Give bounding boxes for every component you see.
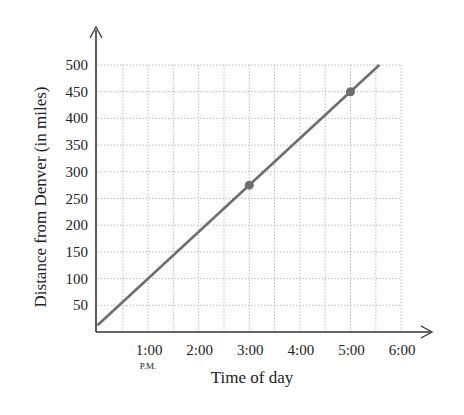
data-point-marker [245,181,254,190]
y-tick-label: 50 [73,297,88,313]
y-tick-label: 400 [66,110,89,126]
x-tick-label: 6:00 [389,342,416,358]
y-tick-label: 250 [66,191,89,207]
x-tick-label: 4:00 [288,342,315,358]
data-series [98,65,380,325]
y-axis-title: Distance from Denver (in miles) [31,87,50,308]
y-tick-label: 100 [66,271,89,287]
x-tick-sublabel: P.M. [140,361,157,371]
y-tick-label: 300 [66,164,89,180]
x-tick-label: 2:00 [186,342,213,358]
y-tick-label: 200 [66,217,89,233]
data-point-marker [346,87,355,96]
x-tick-label: 3:00 [237,342,264,358]
x-tick-label: 5:00 [338,342,365,358]
x-tick-labels: 1:002:003:004:005:006:00P.M. [136,342,416,371]
y-tick-label: 450 [66,84,89,100]
y-tick-label: 350 [66,137,89,153]
series-line [98,65,380,325]
y-tick-label: 500 [66,57,89,73]
grid-lines [98,65,402,332]
y-tick-label: 150 [66,244,89,260]
y-tick-labels: 50100150200250300350400450500 [66,57,89,313]
x-axis-title: Time of day [211,368,294,387]
distance-time-chart: 50100150200250300350400450500 1:002:003:… [0,0,464,415]
axes [90,27,432,338]
x-tick-label: 1:00 [136,342,163,358]
